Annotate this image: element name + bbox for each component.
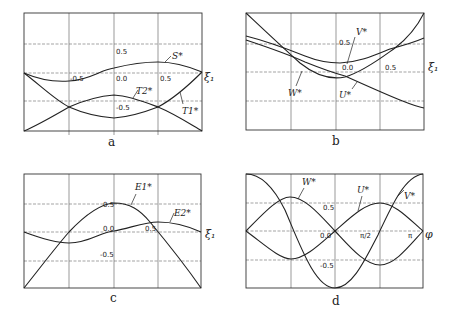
label-t2: T2* bbox=[136, 86, 153, 96]
panel-a: 0.5 -0.5 0.0 0.5 -0.5 S* T2* T1* ξ₁ a bbox=[24, 13, 214, 149]
label-t1: T1* bbox=[182, 106, 199, 116]
label-v: V* bbox=[356, 27, 367, 37]
label-s: S* bbox=[172, 51, 183, 61]
ytick-0.0: 0.0 bbox=[320, 232, 331, 240]
xtick-pi: π bbox=[408, 232, 413, 240]
label-e1: E1* bbox=[134, 182, 152, 192]
ytick-0.5: 0.5 bbox=[103, 201, 114, 209]
ytick-m0.5: -0.5 bbox=[116, 104, 130, 112]
ytick-0.5: 0.5 bbox=[339, 39, 350, 47]
ytick-0.5: 0.5 bbox=[116, 48, 127, 56]
grid bbox=[24, 13, 202, 135]
xtick-0.5: 0.5 bbox=[145, 225, 156, 233]
label-e2: E2* bbox=[173, 208, 191, 218]
label-u: U* bbox=[357, 185, 370, 195]
plot-frame bbox=[24, 13, 202, 131]
xtick-0.0: 0.0 bbox=[116, 75, 127, 83]
curve-s bbox=[24, 62, 202, 81]
panel-b: 0.5 0.0 0.5 V* W* U* ξ₁ b bbox=[246, 13, 438, 148]
curve-t1 bbox=[24, 73, 202, 131]
ytick-m0.5: -0.5 bbox=[100, 251, 114, 259]
ytick-m0.5: -0.5 bbox=[320, 262, 334, 270]
panel-label-b: b bbox=[332, 134, 340, 148]
xtick-0.5: 0.5 bbox=[160, 75, 171, 83]
panel-label-a: a bbox=[108, 135, 115, 149]
label-w: W* bbox=[302, 177, 316, 187]
panel-d: 0.5 0.0 π/2 π -0.5 W* U* V* φ d bbox=[246, 174, 433, 308]
label-u: U* bbox=[339, 90, 352, 100]
x-axis-label: φ bbox=[425, 228, 433, 241]
xtick-m0.5: -0.5 bbox=[70, 75, 84, 83]
panel-label-c: c bbox=[110, 291, 117, 305]
plot-frame bbox=[246, 13, 424, 130]
grid bbox=[246, 13, 424, 130]
label-v: V* bbox=[404, 191, 415, 201]
x-axis-label: ξ₁ bbox=[205, 228, 215, 241]
panel-c: 0.5 0.0 0.5 -0.5 E1* E2* ξ₁ c bbox=[24, 174, 215, 305]
curve-u bbox=[246, 40, 424, 108]
xtick-0.0: 0.0 bbox=[342, 64, 353, 72]
xtick-pi-2: π/2 bbox=[360, 232, 371, 240]
xtick-0.5: 0.5 bbox=[385, 64, 396, 72]
x-axis-label: ξ₁ bbox=[428, 61, 438, 74]
curve-w bbox=[246, 13, 424, 78]
label-w: W* bbox=[288, 88, 302, 98]
ytick-0.0: 0.0 bbox=[103, 225, 114, 233]
panel-label-d: d bbox=[332, 294, 340, 308]
figure: 0.5 -0.5 0.0 0.5 -0.5 S* T2* T1* ξ₁ a 0.… bbox=[0, 0, 456, 313]
ytick-0.5: 0.5 bbox=[323, 204, 334, 212]
x-axis-label: ξ₁ bbox=[204, 71, 214, 84]
